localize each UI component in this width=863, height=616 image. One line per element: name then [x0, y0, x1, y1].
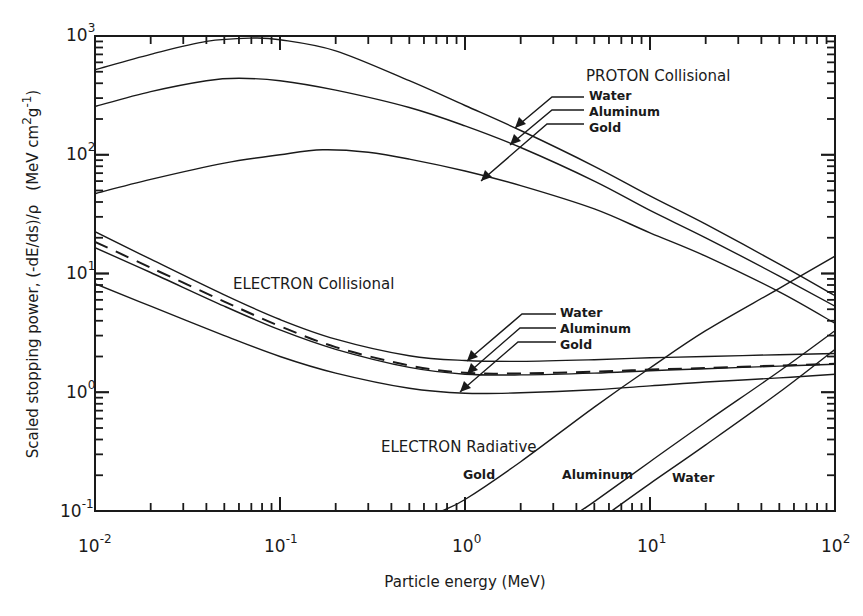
- curve-electron-collisional-aluminum: [95, 242, 835, 374]
- electron-collisional-material-callouts: Water Aluminum Gold: [460, 305, 631, 392]
- x-axis-title: Particle energy (MeV): [384, 573, 545, 591]
- radiative-gold-label: Gold: [463, 467, 495, 482]
- y-axis-title: Scaled stopping power, (-dE/ds)/ρ(MeV cm…: [20, 90, 42, 458]
- leader-arrow: [467, 328, 556, 374]
- proton-material-callouts: Water Aluminum Gold: [481, 88, 660, 181]
- arrowhead-icon: [460, 381, 471, 392]
- curve-electron-radiative-gold: [442, 256, 835, 511]
- curve-proton-collisional-aluminum: [95, 78, 835, 306]
- proton-gold-label: Gold: [589, 120, 621, 135]
- proton-collisional-label: PROTON Collisional: [586, 67, 730, 85]
- y-tick-label: 102: [66, 140, 95, 164]
- radiative-water-label: Water: [672, 470, 715, 485]
- radiative-aluminum-label: Aluminum: [562, 467, 633, 482]
- proton-water-label: Water: [589, 88, 632, 103]
- stopping-power-chart: 10-2 10-1 100 101 102 103 102 101 100 10…: [0, 0, 863, 616]
- arrowhead-icon: [515, 117, 526, 128]
- curve-electron-collisional-gold: [95, 284, 835, 394]
- proton-aluminum-label: Aluminum: [589, 104, 660, 119]
- electron-aluminum-label: Aluminum: [560, 321, 631, 336]
- leader-arrow: [467, 314, 556, 361]
- y-tick-label: 103: [66, 21, 95, 45]
- x-tick-label: 10-2: [78, 532, 112, 556]
- x-tick-label: 100: [452, 532, 481, 556]
- x-tick-labels: 10-2 10-1 100 101 102: [78, 532, 850, 556]
- x-tick-label: 10-1: [264, 532, 298, 556]
- x-tick-label: 101: [637, 532, 666, 556]
- x-tick-label: 102: [821, 532, 850, 556]
- electron-radiative-label: ELECTRON Radiative: [381, 438, 537, 456]
- curve-electron-collisional-water: [95, 232, 835, 362]
- arrowhead-icon: [510, 134, 521, 145]
- electron-water-label: Water: [560, 305, 603, 320]
- y-tick-label: 101: [66, 259, 95, 283]
- electron-collisional-label: ELECTRON Collisional: [233, 275, 394, 293]
- curve-electron-radiative-water: [612, 349, 835, 511]
- y-tick-label: 10-1: [60, 497, 94, 521]
- leader-arrow: [510, 110, 584, 145]
- y-tick-label: 100: [66, 378, 95, 402]
- arrowhead-icon: [467, 350, 478, 361]
- electron-gold-label: Gold: [560, 337, 592, 352]
- y-tick-labels: 103 102 101 100 10-1: [60, 21, 95, 521]
